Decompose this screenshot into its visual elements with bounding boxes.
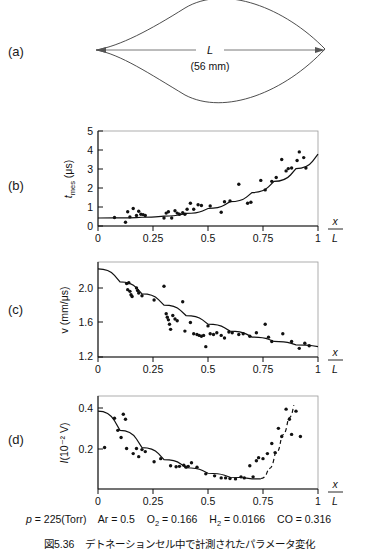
data-point: [122, 413, 125, 416]
x-axis-title-c-den: L: [332, 363, 338, 375]
species-ar: Ar = 0.5: [98, 513, 135, 525]
data-point: [165, 312, 168, 315]
data-point: [124, 221, 127, 224]
data-point: [132, 452, 135, 455]
y-axis-title-b-sub: mes: [68, 181, 77, 195]
data-point: [132, 207, 135, 210]
data-point: [248, 464, 251, 467]
data-point: [130, 295, 133, 298]
y-axis-title-c: v (mm/μs): [58, 287, 70, 334]
data-point: [270, 442, 273, 445]
x-axis-title-d-num: x: [331, 478, 338, 490]
y-tick-label-c-1: 1.6: [78, 316, 93, 328]
data-point: [128, 290, 131, 293]
y-tick-label-d-0: 0.2: [78, 443, 93, 455]
data-point: [264, 322, 267, 325]
data-points-d: [103, 407, 302, 480]
data-point: [174, 465, 177, 468]
dimension-arrow-left: [96, 47, 106, 53]
data-point: [299, 435, 302, 438]
x-tick-label-d-1: 0.25: [143, 495, 164, 507]
figure-root: (a) (b) (c) (d) L (56 mm): [0, 0, 369, 555]
y-axis-title-b: tmes (μs): [62, 160, 77, 198]
data-point: [220, 476, 223, 479]
data-point: [290, 166, 293, 169]
y-tick-label-c-0: 1.2: [78, 350, 93, 362]
data-point: [196, 203, 199, 206]
data-point: [223, 336, 226, 339]
data-point: [137, 455, 140, 458]
data-point: [152, 298, 155, 301]
y-tick-label-b-3: 3: [87, 163, 93, 175]
data-point: [137, 209, 140, 212]
conditions-line: p = 225(Torr) Ar = 0.5 O2 = 0.166 H2 = 0…: [26, 513, 369, 528]
data-point: [209, 332, 212, 335]
x-axis-title-b-num: x: [331, 215, 338, 227]
y-axis-title-d: I(10⁻² V): [58, 422, 70, 463]
data-points-b: [113, 150, 308, 224]
y-tick-label-d-1: 0.4: [78, 402, 93, 414]
x-tick-label-b-4: 1: [315, 232, 321, 244]
data-point: [183, 329, 186, 332]
x-tick-label-c-2: 0.5: [201, 363, 216, 375]
pressure-symbol: p: [26, 513, 32, 525]
data-point: [103, 446, 106, 449]
x-axis-title-d-den: L: [332, 495, 338, 507]
data-point: [261, 457, 264, 460]
fit-curve-c: [98, 269, 318, 347]
data-point: [215, 331, 218, 334]
data-point: [189, 202, 192, 205]
data-point: [209, 204, 212, 207]
data-point: [192, 332, 195, 335]
data-point: [223, 200, 226, 203]
caption-number: 図5.36: [44, 538, 74, 550]
x-ticks-b: [98, 226, 318, 231]
data-point: [202, 334, 205, 337]
data-point: [190, 461, 193, 464]
x-axis-title-b: x L: [328, 215, 343, 244]
data-point: [124, 418, 127, 421]
species-o2: O2 = 0.166: [147, 513, 198, 525]
data-point: [303, 341, 306, 344]
data-point: [140, 448, 143, 451]
data-point: [171, 314, 174, 317]
cell-length-symbol: L: [207, 44, 213, 56]
data-point: [213, 474, 216, 477]
data-point: [294, 409, 297, 412]
data-point: [204, 345, 207, 348]
x-axis-title-c: x L: [328, 346, 343, 375]
data-point: [295, 159, 298, 162]
x-tick-label-d-0: 0: [95, 495, 101, 507]
data-point: [169, 328, 172, 331]
data-point: [176, 319, 179, 322]
data-point: [162, 284, 165, 287]
y-tick-label-b-5: 5: [87, 125, 93, 137]
data-point: [281, 332, 284, 335]
data-point: [167, 318, 170, 321]
data-point: [298, 150, 301, 153]
chart-panel-d: 0.2 0.4 0 0.25 0.5 0.75 1 I(10⁻² V) x: [58, 396, 343, 507]
data-point: [220, 334, 223, 337]
data-point: [237, 183, 240, 186]
data-point: [255, 459, 258, 462]
chart-panel-c: 1.2 1.6 2.0 0 0.25 0.5 0.75 1 v (mm/μs) …: [58, 262, 343, 375]
y-axis-title-c-text: v (mm/μs): [58, 287, 70, 334]
data-point: [266, 452, 269, 455]
x-tick-label-d-2: 0.5: [201, 495, 216, 507]
x-tick-label-d-3: 0.75: [253, 495, 274, 507]
y-ticks-c: [98, 288, 103, 357]
data-point: [178, 465, 181, 468]
data-point: [284, 407, 287, 410]
x-tick-label-b-1: 0.25: [143, 232, 164, 244]
data-point: [181, 300, 184, 303]
species-co: CO = 0.316: [277, 513, 331, 525]
x-tick-label-b-0: 0: [95, 232, 101, 244]
data-point: [280, 158, 283, 161]
figure-canvas: L (56 mm) 0 1 2 3 4 5: [0, 0, 369, 555]
y-tick-label-b-2: 2: [87, 182, 93, 194]
caption-text: デトネーションセル中で計測されたパラメータ変化: [85, 538, 315, 550]
x-axis-title-d: x L: [328, 478, 343, 507]
x-tick-label-b-3: 0.75: [253, 232, 274, 244]
cell-schematic: L (56 mm): [96, 0, 325, 103]
data-point: [259, 179, 262, 182]
